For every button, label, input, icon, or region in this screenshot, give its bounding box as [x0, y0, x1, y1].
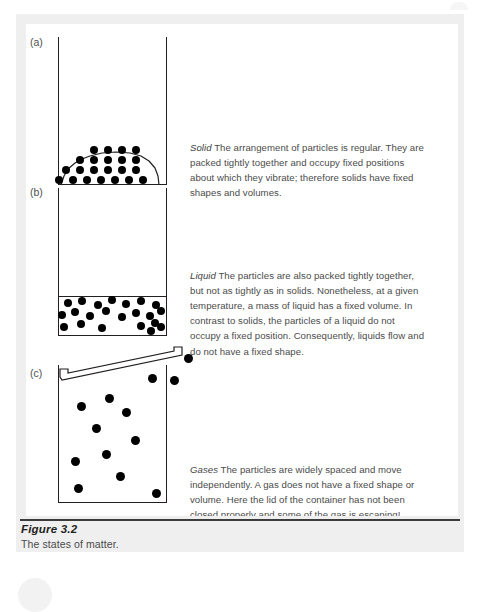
description-solid: Solid The arrangement of particles is re…	[190, 140, 425, 201]
page-watermark-circle	[18, 578, 52, 612]
solid-heap-outline	[58, 37, 173, 189]
description-text-gas: The particles are widely spaced and move…	[190, 464, 414, 521]
particle	[170, 376, 179, 385]
description-text-liquid: The particles are also packed tightly to…	[190, 270, 424, 357]
caption-rule	[20, 519, 460, 521]
state-term-gases: Gases	[190, 464, 218, 475]
particle	[116, 472, 125, 481]
particle	[92, 424, 101, 433]
description-liquid: Liquid The particles are also packed tig…	[190, 268, 425, 359]
figure-caption-title: Figure 3.2	[21, 523, 77, 535]
particle	[74, 484, 83, 493]
figure-panel: (a)	[26, 24, 458, 516]
panel-label-c: (c)	[30, 367, 42, 379]
particle	[131, 436, 140, 445]
description-text-solid: The arrangement of particles is regular.…	[190, 142, 424, 199]
state-term-liquid: Liquid	[190, 270, 216, 281]
particle	[77, 402, 86, 411]
particle	[184, 354, 193, 363]
particle	[71, 457, 80, 466]
particle	[122, 408, 131, 417]
page-corner-mark	[450, 2, 468, 10]
particle	[152, 489, 161, 498]
panel-label-a: (a)	[30, 36, 43, 48]
particle	[105, 394, 114, 403]
container-lid	[52, 342, 187, 387]
particle	[148, 374, 157, 383]
state-term-solid: Solid	[190, 142, 212, 153]
description-gas: Gases The particles are widely spaced an…	[190, 462, 425, 523]
particle	[102, 450, 111, 459]
panel-label-b: (b)	[30, 186, 43, 198]
figure-caption-subtitle: The states of matter.	[21, 538, 119, 550]
